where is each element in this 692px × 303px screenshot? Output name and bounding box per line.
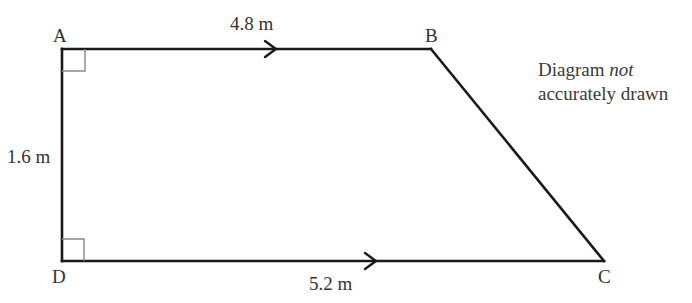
vertex-label-c: C <box>598 266 611 287</box>
note-line-2: accurately drawn <box>538 82 668 106</box>
vertex-label-a: A <box>53 25 67 46</box>
not-to-scale-note: Diagram not accurately drawn <box>538 58 668 106</box>
trapezium-diagram: A B D C 4.8 m 5.2 m 1.6 m <box>0 0 692 303</box>
vertex-label-b: B <box>425 25 438 46</box>
side-label-ab: 4.8 m <box>230 13 274 34</box>
side-label-ad: 1.6 m <box>7 146 51 167</box>
trapezium-edges <box>62 49 604 261</box>
right-angle-marker-d <box>62 239 84 261</box>
side-label-dc: 5.2 m <box>309 273 353 294</box>
vertex-label-d: D <box>52 266 66 287</box>
right-angle-marker-a <box>62 49 85 71</box>
note-line-1: Diagram not <box>538 58 668 82</box>
